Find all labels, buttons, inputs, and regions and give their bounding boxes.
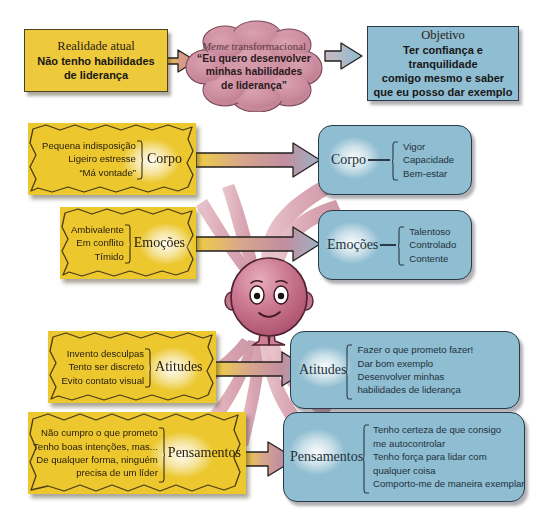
torn-box-pensamentos: Não cumpro o que prometo Tenho boas inte… xyxy=(28,412,246,494)
brace-icon xyxy=(144,347,151,387)
torn-box-corpo: Pequena indisposição Ligeiro estresse “M… xyxy=(28,123,196,195)
atitudes-right-item-1: Fazer o que prometo fazer! xyxy=(357,343,473,356)
box-realidade-atual: Realidade atual Não tenho habilidades de… xyxy=(24,29,168,92)
emocoes-left-label: Emoções xyxy=(134,235,185,251)
corpo-right-items: Vigor Capacidade Bem-estar xyxy=(403,140,454,180)
pensamentos-left-label: Pensamentos xyxy=(168,445,241,461)
emocoes-right-item-3: Contente xyxy=(409,252,448,265)
meme-label: Meme transformacional xyxy=(202,40,306,52)
pensamentos-right-label: Pensamentos xyxy=(290,449,363,465)
pensamentos-left-item-2: Tenho boas intenções, mas... xyxy=(33,440,158,453)
realidade-line-2: de liderança xyxy=(64,68,128,82)
brace-icon xyxy=(363,423,370,490)
emocoes-left-item-1: Ambivalente xyxy=(71,223,124,236)
corpo-right-item-2: Capacidade xyxy=(403,153,454,166)
objetivo-title: Objetivo xyxy=(421,28,465,43)
brace-icon xyxy=(392,140,399,180)
atitudes-right-item-3: Desenvolver minhas xyxy=(357,370,444,383)
personagem-central xyxy=(223,255,315,349)
corpo-left-item-1: Pequena indisposição xyxy=(42,139,136,152)
pensamentos-left-item-3: De qualquer forma, ninguém xyxy=(36,453,158,466)
emocoes-right-item-2: Controlado xyxy=(409,238,456,251)
pensamentos-right-items: Tenho certeza de que consigo me autocont… xyxy=(373,423,524,490)
meme-word: Meme xyxy=(202,40,229,52)
meme-rest: transformacional xyxy=(229,40,306,52)
corpo-right-label: Corpo xyxy=(331,152,366,168)
brace-icon xyxy=(346,343,353,397)
atitudes-right-item-2: Dar bom exemplo xyxy=(357,357,433,370)
corpo-left-item-2: Ligeiro estresse xyxy=(68,152,136,165)
objetivo-line-3: que eu posso dar exemplo xyxy=(374,85,513,99)
emocoes-left-item-3: Tímido xyxy=(94,250,123,263)
pensamentos-right-item-5: Comporto-me de maneira exemplar xyxy=(373,477,524,490)
atitudes-right-label: Atitudes xyxy=(299,362,346,378)
pensamentos-left-item-4: precisa de um líder xyxy=(76,466,158,479)
atitudes-left-item-1: Invento desculpas xyxy=(67,347,144,360)
pensamentos-left-item-1: Não cumpro o que prometo xyxy=(41,426,158,439)
emocoes-right-items: Talentoso Controlado Contente xyxy=(409,225,456,265)
box-objetivo: Objetivo Ter confiança e tranquilidade c… xyxy=(367,26,519,101)
torn-box-atitudes: Invento desculpas Tento ser discreto Evi… xyxy=(48,331,216,403)
meme-line-2: minhas habilidades xyxy=(206,65,302,79)
meme-line-1: “Eu quero desenvolver xyxy=(197,52,311,66)
atitudes-left-items: Invento desculpas Tento ser discreto Evi… xyxy=(61,347,144,387)
emocoes-left-item-2: Em conflito xyxy=(76,236,123,249)
corpo-right-item-3: Bem-estar xyxy=(403,167,447,180)
emocoes-right-label: Emoções xyxy=(327,237,378,253)
connector-line xyxy=(368,159,390,160)
corpo-right-item-1: Vigor xyxy=(403,140,425,153)
atitudes-right-items: Fazer o que prometo fazer! Dar bom exemp… xyxy=(357,343,473,397)
torn-box-emocoes: Ambivalente Em conflito Tímido Emoções xyxy=(60,207,196,279)
objetivo-line-2: comigo mesmo e saber xyxy=(382,71,504,85)
diagram-canvas: Realidade atual Não tenho habilidades de… xyxy=(0,0,539,528)
pensamentos-left-items: Não cumpro o que prometo Tenho boas inte… xyxy=(33,426,158,480)
atitudes-left-item-2: Tento ser discreto xyxy=(68,360,144,373)
meme-line-3: de liderança” xyxy=(221,79,287,93)
emocoes-left-items: Ambivalente Em conflito Tímido xyxy=(71,223,124,263)
connector-line xyxy=(380,244,396,245)
emocoes-right-item-1: Talentoso xyxy=(409,225,450,238)
objetivo-line-1: Ter confiança e tranquilidade xyxy=(368,43,518,71)
corpo-left-label: Corpo xyxy=(147,151,182,167)
box-emocoes-positivo: Emoções Talentoso Controlado Contente xyxy=(318,210,472,280)
realidade-title: Realidade atual xyxy=(57,39,134,54)
cloud-meme-transformacional: Meme transformacional “Eu quero desenvol… xyxy=(185,20,323,112)
brace-icon xyxy=(158,426,165,480)
brace-icon xyxy=(124,223,131,263)
pensamentos-right-item-1: Tenho certeza de que consigo xyxy=(373,423,501,436)
atitudes-left-item-3: Evito contato visual xyxy=(61,374,144,387)
atitudes-right-item-4: habilidades de liderança xyxy=(357,383,460,396)
atitudes-left-label: Atitudes xyxy=(155,359,202,375)
corpo-left-item-3: “Má vontade” xyxy=(79,166,136,179)
realidade-line-1: Não tenho habilidades xyxy=(37,54,154,68)
box-pensamentos-positivo: Pensamentos Tenho certeza de que consigo… xyxy=(283,412,525,502)
pensamentos-right-item-3: Tenho força para lidar com xyxy=(373,450,487,463)
brace-icon xyxy=(398,225,405,265)
pensamentos-right-item-4: qualquer coisa xyxy=(373,464,435,477)
pensamentos-right-item-2: me autocontrolar xyxy=(373,437,445,450)
character-icon xyxy=(223,255,315,349)
box-corpo-positivo: Corpo Vigor Capacidade Bem-estar xyxy=(318,125,472,195)
box-atitudes-positivo: Atitudes Fazer o que prometo fazer! Dar … xyxy=(290,331,520,409)
corpo-left-items: Pequena indisposição Ligeiro estresse “M… xyxy=(42,139,136,179)
brace-icon xyxy=(136,139,143,179)
